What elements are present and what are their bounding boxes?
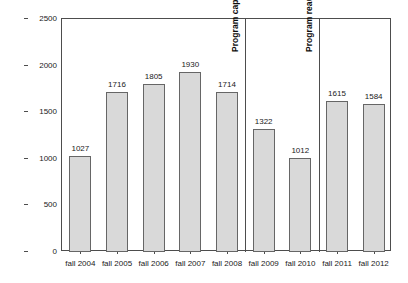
- y-tick-label: 500: [28, 199, 62, 211]
- bar: [289, 158, 311, 252]
- bar: [179, 72, 201, 252]
- plot-area: OSP Scholarship Users 050010001500200025…: [61, 18, 391, 251]
- y-tick-mark: [24, 204, 28, 205]
- bar-chart-figure: OSP Scholarship Users 050010001500200025…: [0, 0, 408, 283]
- bar: [69, 156, 91, 252]
- section-divider-line: [319, 19, 320, 252]
- bar: [216, 92, 238, 252]
- y-tick-mark: [24, 158, 28, 159]
- bar: [326, 101, 348, 252]
- y-tick-mark: [24, 251, 28, 252]
- chart-annotation: Program reauthorized in 2011: [304, 0, 315, 52]
- bar: [363, 104, 385, 252]
- bar: [253, 129, 275, 252]
- y-tick-mark: [24, 111, 28, 112]
- y-tick-mark: [24, 18, 28, 19]
- bar: [143, 84, 165, 252]
- y-tick-label: 1000: [28, 153, 62, 165]
- y-tick-label: 0: [28, 246, 62, 258]
- y-tick-mark: [24, 65, 28, 66]
- bar-value-label: 1805: [134, 71, 174, 83]
- chart-annotation: Program capped in summer 2009: [230, 0, 241, 52]
- bar-value-label: 1012: [280, 145, 320, 157]
- bar-value-label: 1584: [354, 91, 394, 103]
- bar-value-label: 1714: [207, 79, 247, 91]
- bar-value-label: 1615: [317, 88, 357, 100]
- bar: [106, 92, 128, 252]
- x-tick-label: fall 2012: [349, 258, 399, 270]
- y-tick-label: 1500: [28, 106, 62, 118]
- y-tick-label: 2000: [28, 60, 62, 72]
- bar-value-label: 1027: [60, 143, 100, 155]
- bar-value-label: 1930: [170, 59, 210, 71]
- bar-value-label: 1322: [244, 116, 284, 128]
- y-tick-label: 2500: [28, 13, 62, 25]
- bar-value-label: 1716: [97, 79, 137, 91]
- section-divider-line: [245, 19, 246, 252]
